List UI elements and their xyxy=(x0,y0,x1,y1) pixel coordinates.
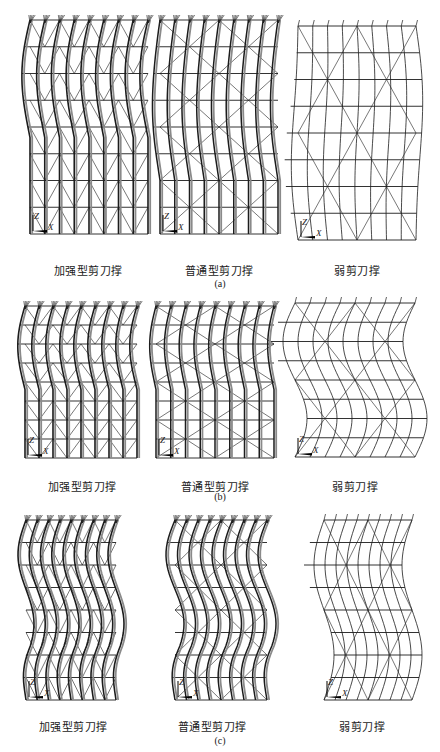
panel-caption: 普通型剪刀撑 xyxy=(179,262,259,278)
subfigure-label: (c) xyxy=(200,735,240,746)
axis-triad-icon: ZX xyxy=(159,435,180,457)
svg-text:X: X xyxy=(42,446,49,456)
svg-text:X: X xyxy=(43,688,50,698)
buckling-mode-panel-reinforced: ZX xyxy=(30,14,148,236)
svg-text:X: X xyxy=(341,688,348,698)
svg-text:X: X xyxy=(177,222,184,232)
panel-caption: 加强型剪刀撑 xyxy=(42,478,122,494)
panel-caption: 普通型剪刀撑 xyxy=(172,718,252,734)
buckling-mode-panel-ordinary: ZX xyxy=(160,14,278,236)
axis-triad-icon: ZX xyxy=(33,211,54,233)
svg-text:X: X xyxy=(312,445,319,455)
svg-text:Z: Z xyxy=(302,217,308,227)
svg-text:X: X xyxy=(47,222,54,232)
scaffold-wireframe: ZX xyxy=(25,300,137,460)
svg-text:X: X xyxy=(192,688,199,698)
scaffold-wireframe: ZX xyxy=(175,514,267,702)
scaffold-wireframe: ZX xyxy=(30,14,148,236)
subfigure-label: (a) xyxy=(200,278,240,289)
buckling-mode-panel-ordinary: ZX xyxy=(156,300,274,460)
buckling-mode-panel-weak: ZX xyxy=(324,514,412,702)
scaffold-wireframe: ZX xyxy=(324,514,412,702)
panel-caption: 加强型剪刀撑 xyxy=(33,718,113,734)
panel-caption: 弱剪刀撑 xyxy=(317,262,397,278)
scaffold-wireframe: ZX xyxy=(156,300,274,460)
panel-caption: 加强型剪刀撑 xyxy=(48,262,128,278)
panel-caption: 弱剪刀撑 xyxy=(315,478,395,494)
panel-caption: 弱剪刀撑 xyxy=(322,718,402,734)
buckling-mode-panel-reinforced: ZX xyxy=(25,300,137,460)
scaffold-wireframe: ZX xyxy=(298,20,416,242)
svg-text:X: X xyxy=(315,228,322,238)
subfigure-label: (b) xyxy=(200,491,240,502)
buckling-mode-panel-weak: ZX xyxy=(295,297,415,459)
svg-text:X: X xyxy=(173,446,180,456)
buckling-mode-panel-reinforced: ZX xyxy=(26,514,116,702)
buckling-mode-panel-weak: ZX xyxy=(298,20,416,242)
svg-text:Z: Z xyxy=(34,211,40,221)
svg-text:Z: Z xyxy=(164,211,170,221)
scaffold-wireframe: ZX xyxy=(295,297,415,459)
scaffold-wireframe: ZX xyxy=(160,14,278,236)
svg-text:Z: Z xyxy=(160,435,166,445)
svg-text:Z: Z xyxy=(29,435,35,445)
scaffold-wireframe: ZX xyxy=(26,514,116,702)
buckling-mode-panel-ordinary: ZX xyxy=(175,514,267,702)
